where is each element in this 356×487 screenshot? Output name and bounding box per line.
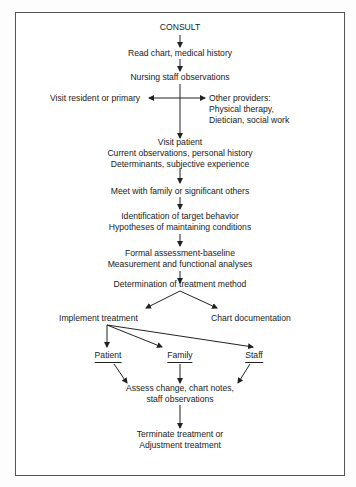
visit-patient-line-2: Current observations, personal history bbox=[107, 148, 252, 159]
node-formal-assessment: Formal assessment-baseline Measurement a… bbox=[108, 248, 253, 270]
terminate-line-1: Terminate treatment or bbox=[137, 429, 223, 440]
node-terminate: Terminate treatment or Adjustment treatm… bbox=[137, 429, 223, 451]
identification-line-1: Identification of target behavior bbox=[109, 211, 251, 222]
assess-line-1: Assess change, chart notes, bbox=[126, 383, 234, 394]
node-meet-family: Meet with family or significant others bbox=[111, 186, 250, 197]
node-identification: Identification of target behavior Hypoth… bbox=[109, 211, 251, 233]
other-providers-line-3: Dietician, social work bbox=[209, 115, 289, 126]
node-visit-patient: Visit patient Current observations, pers… bbox=[107, 137, 252, 169]
assess-line-2: staff observations bbox=[126, 394, 234, 405]
formal-assessment-line-2: Measurement and functional analyses bbox=[108, 259, 253, 270]
node-nursing-observations: Nursing staff observations bbox=[130, 72, 229, 83]
other-providers-line-1: Other providers: bbox=[209, 93, 289, 104]
node-visit-resident: Visit resident or primary bbox=[50, 93, 140, 104]
node-chart-documentation: Chart documentation bbox=[211, 313, 291, 324]
node-family: Family bbox=[167, 350, 192, 363]
terminate-line-2: Adjustment treatment bbox=[137, 440, 223, 451]
other-providers-line-2: Physical therapy, bbox=[209, 104, 289, 115]
node-staff: Staff bbox=[245, 350, 263, 363]
formal-assessment-line-1: Formal assessment-baseline bbox=[108, 248, 253, 259]
node-implement-treatment: Implement treatment bbox=[59, 313, 138, 324]
node-read-chart: Read chart, medical history bbox=[128, 48, 232, 59]
visit-patient-line-3: Determinants, subjective experience bbox=[107, 159, 252, 170]
visit-patient-line-1: Visit patient bbox=[107, 137, 252, 148]
node-consult: CONSULT bbox=[160, 22, 200, 33]
node-other-providers: Other providers: Physical therapy, Dieti… bbox=[209, 93, 289, 125]
node-patient: Patient bbox=[95, 350, 122, 363]
identification-line-2: Hypotheses of maintaining conditions bbox=[109, 222, 251, 233]
node-assess-change: Assess change, chart notes, staff observ… bbox=[126, 383, 234, 405]
node-determination: Determination of treatment method bbox=[114, 279, 247, 290]
